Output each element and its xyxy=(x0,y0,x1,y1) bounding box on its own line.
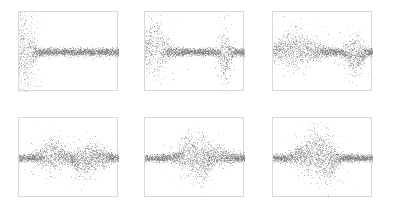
scatter-panel-8 xyxy=(272,117,372,197)
scatter-canvas xyxy=(19,118,119,198)
panel-grid xyxy=(0,0,395,210)
scatter-panel-7 xyxy=(144,117,244,197)
scatter-panel-6 xyxy=(18,117,118,197)
scatter-canvas xyxy=(273,12,373,92)
scatter-canvas xyxy=(19,12,119,92)
scatter-canvas xyxy=(273,118,373,198)
scatter-panel-2 xyxy=(272,11,372,91)
scatter-canvas xyxy=(145,118,245,198)
scatter-panel-1 xyxy=(144,11,244,91)
figure-small-multiples-scatter-grid xyxy=(0,0,395,210)
scatter-panel-0 xyxy=(18,11,118,91)
scatter-canvas xyxy=(145,12,245,92)
